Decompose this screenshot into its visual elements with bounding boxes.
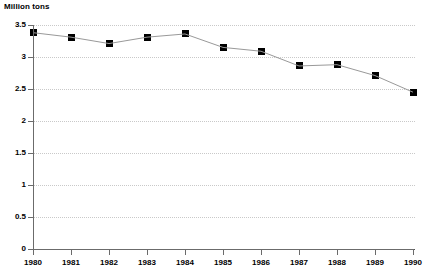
x-tick: [337, 249, 338, 255]
x-axis-tick-label: 1987: [279, 258, 319, 267]
x-axis-tick-label: 1980: [13, 258, 53, 267]
y-tick: [28, 185, 33, 186]
x-axis-tick-label: 1982: [89, 258, 129, 267]
x-tick: [413, 249, 414, 255]
y-tick: [28, 153, 33, 154]
y-axis-tick-label: 1.5: [0, 148, 26, 157]
x-tick: [185, 249, 186, 255]
x-axis-tick-label: 1983: [127, 258, 167, 267]
x-tick: [147, 249, 148, 255]
x-axis-tick-label: 1985: [203, 258, 243, 267]
series-line: [0, 0, 425, 280]
y-axis-tick-label: 0.5: [0, 212, 26, 221]
y-tick: [28, 25, 33, 26]
line-chart: Million tons 00.511.522.533.5 1980198119…: [0, 0, 425, 280]
x-axis-tick-label: 1989: [355, 258, 395, 267]
y-tick: [28, 217, 33, 218]
y-tick: [28, 121, 33, 122]
x-tick: [109, 249, 110, 255]
y-tick: [28, 57, 33, 58]
x-tick: [299, 249, 300, 255]
y-axis-tick-label: 3.5: [0, 20, 26, 29]
y-axis-line: [33, 25, 34, 250]
y-axis-tick-label: 1: [0, 180, 26, 189]
y-axis-tick-label: 2.5: [0, 84, 26, 93]
x-tick: [33, 249, 34, 255]
y-axis-tick-label: 3: [0, 52, 26, 61]
x-tick: [223, 249, 224, 255]
x-axis-tick-label: 1990: [393, 258, 425, 267]
y-axis-tick-label: 0: [0, 244, 26, 253]
x-tick: [71, 249, 72, 255]
x-tick: [261, 249, 262, 255]
x-axis-tick-label: 1986: [241, 258, 281, 267]
y-axis-tick-label: 2: [0, 116, 26, 125]
x-axis-tick-label: 1984: [165, 258, 205, 267]
y-tick: [28, 89, 33, 90]
x-axis-tick-label: 1981: [51, 258, 91, 267]
x-axis-tick-label: 1988: [317, 258, 357, 267]
x-tick: [375, 249, 376, 255]
